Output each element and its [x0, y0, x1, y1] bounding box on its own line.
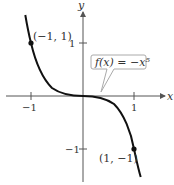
y-axis-label: y [77, 0, 85, 12]
function-graph: y x −1 1 1 −1 (−1, 1) (1, −1) f(x) = −x⁵ [0, 0, 174, 185]
function-label: f(x) = −x⁵ [94, 56, 150, 69]
point-1-neg1 [131, 146, 136, 151]
point-label-neg1-1: (−1, 1) [33, 30, 72, 43]
x-tick-label-neg1: −1 [22, 102, 37, 113]
y-tick-label-neg1: −1 [65, 144, 80, 155]
x-tick-label-1: 1 [131, 102, 137, 113]
point-label-1-neg1: (1, −1) [99, 152, 138, 165]
x-axis-label: x [167, 90, 174, 103]
function-callout: f(x) = −x⁵ [91, 55, 150, 92]
